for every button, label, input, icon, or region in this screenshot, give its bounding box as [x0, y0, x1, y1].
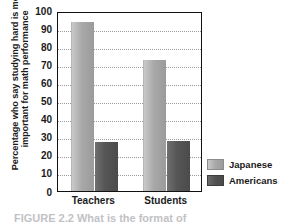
y-axis-tick-70: 70: [26, 61, 52, 71]
bar-students-japanese: [143, 60, 166, 191]
x-axis-tick-students: Students: [126, 195, 206, 206]
plot-area: [57, 12, 202, 192]
legend-item-americans: Americans: [207, 175, 278, 186]
y-axis-title-line-1: Percentage who say studying hard is most: [10, 0, 21, 170]
y-axis-tick-20: 20: [26, 151, 52, 161]
y-axis-tick-30: 30: [26, 133, 52, 143]
bar-chart-figure: Percentage who say studying hard is most…: [0, 0, 281, 223]
y-axis-tick-10: 10: [26, 169, 52, 179]
figure-caption: FIGURE 2.2 What is the format of: [14, 214, 224, 223]
y-axis-tick-80: 80: [26, 43, 52, 53]
chart-legend: JapaneseAmericans: [207, 159, 278, 186]
bar-series-container: [58, 13, 201, 191]
figure-caption-text: FIGURE 2.2 What is the format of: [14, 214, 224, 223]
legend-label-japanese: Japanese: [229, 159, 272, 170]
y-axis-tick-90: 90: [26, 25, 52, 35]
legend-item-japanese: Japanese: [207, 159, 278, 170]
y-axis-tick-zero: 0: [26, 187, 52, 198]
y-axis-tick-60: 60: [26, 79, 52, 89]
legend-label-americans: Americans: [229, 175, 278, 186]
bar-group-teachers: [58, 13, 131, 191]
legend-swatch-americans: [207, 175, 224, 186]
bar-teachers-americans: [95, 142, 118, 191]
x-axis-tick-labels: TeachersStudents: [57, 195, 202, 209]
bar-group-students: [131, 13, 204, 191]
x-axis-tick-teachers: Teachers: [53, 195, 133, 206]
y-axis-tick-50: 50: [26, 97, 52, 107]
y-axis-tick-labels: 100908070605040302010: [26, 7, 52, 197]
bar-students-americans: [167, 141, 190, 191]
legend-swatch-japanese: [207, 159, 224, 170]
bar-teachers-japanese: [71, 22, 94, 191]
y-axis-tick-100: 100: [26, 7, 52, 17]
y-axis-tick-40: 40: [26, 115, 52, 125]
